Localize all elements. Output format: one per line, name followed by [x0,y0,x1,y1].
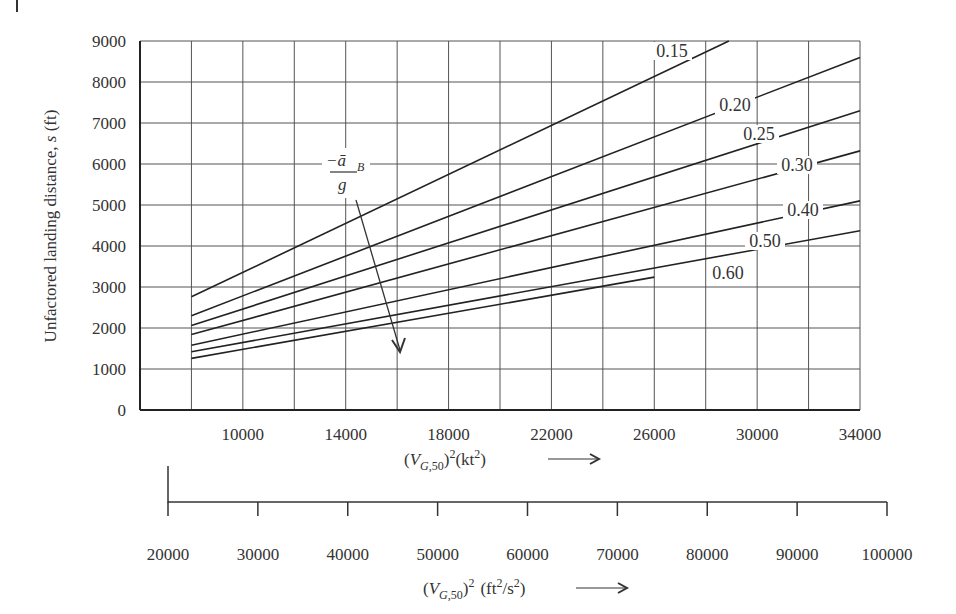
curve-0.40 [191,201,860,345]
secondary-x-tick-label: 40000 [327,545,370,564]
curve-label: 0.50 [749,231,781,251]
curve-label: 0.40 [787,200,819,220]
x-tick-label: 30000 [736,425,779,444]
curve-label: 0.60 [712,263,744,283]
y-tick-label: 0 [118,401,127,420]
y-axis-label: Unfactored landing distance, s (ft) [41,110,60,343]
x-tick-label: 14000 [324,425,367,444]
y-tick-label: 8000 [92,73,126,92]
x-tick-label: 26000 [633,425,676,444]
y-tick-label: 6000 [92,155,126,174]
x-tick-label: 34000 [839,425,882,444]
x-axis-ticks: 10000140001800022000260003000034000 [222,425,882,444]
curve-labels: 0.150.200.250.300.400.500.60 [652,41,823,283]
x-tick-label: 18000 [427,425,470,444]
svg-text:(VG,50)2(ft2/s2): (VG,50)2(ft2/s2) [423,576,525,602]
curve-0.20 [191,57,860,315]
svg-text:(VG,50)2(kt2): (VG,50)2(kt2) [404,447,486,473]
y-tick-label: 7000 [92,114,126,133]
secondary-x-tick-label: 30000 [237,545,280,564]
secondary-x-tick-label: 20000 [147,545,190,564]
curve-label: 0.25 [743,124,775,144]
curve-label: 0.15 [656,41,688,61]
secondary-x-axis: 2000030000400005000060000700008000090000… [147,466,913,564]
secondary-x-tick-label: 100000 [862,545,913,564]
y-axis-ticks: 0100020003000400050006000700080009000 [92,32,126,420]
landing-distance-chart: 0100020003000400050006000700080009000 10… [0,0,956,614]
svg-text:B: B [357,160,365,174]
y-tick-label: 9000 [92,32,126,51]
x-tick-label: 22000 [530,425,573,444]
y-tick-label: 3000 [92,278,126,297]
x-axis-label-kt: (VG,50)2(kt2) [404,447,599,473]
secondary-x-tick-label: 60000 [506,545,549,564]
x-axis-label-fts: (VG,50)2(ft2/s2) [423,576,627,602]
y-tick-label: 5000 [92,196,126,215]
curve-label: 0.20 [719,95,751,115]
curve-0.15 [191,41,728,297]
y-tick-label: 2000 [92,319,126,338]
secondary-x-tick-label: 90000 [776,545,819,564]
secondary-x-tick-label: 80000 [686,545,729,564]
svg-text:g: g [338,175,347,194]
svg-text:−ā: −ā [326,151,346,170]
y-tick-label: 1000 [92,360,126,379]
y-tick-label: 4000 [92,237,126,256]
secondary-x-tick-label: 70000 [596,545,639,564]
curve-label: 0.30 [781,155,813,175]
secondary-x-tick-label: 50000 [416,545,459,564]
curves [191,41,860,358]
x-tick-label: 10000 [222,425,265,444]
